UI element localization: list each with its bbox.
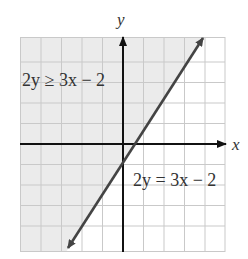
- inequality-graph: y x 2y ≥ 3x − 2 2y = 3x − 2: [0, 0, 248, 259]
- inequality-label: 2y ≥ 3x − 2: [22, 70, 105, 90]
- graph-canvas: y x 2y ≥ 3x − 2 2y = 3x − 2: [0, 0, 248, 259]
- y-axis-label: y: [115, 10, 125, 29]
- x-axis-label: x: [231, 135, 240, 154]
- boundary-equation-label: 2y = 3x − 2: [133, 170, 216, 190]
